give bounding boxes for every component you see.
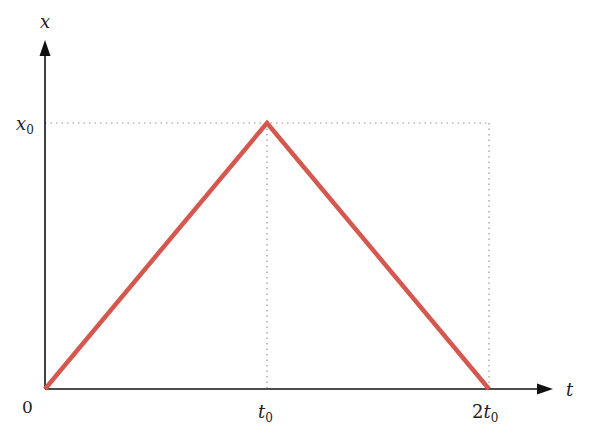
origin-label: 0 — [22, 397, 33, 417]
x-tick-t0: t0 — [258, 401, 273, 425]
axes — [45, 52, 541, 389]
y-tick-x0-sub: 0 — [26, 123, 34, 137]
x-tick-t0-sub: 0 — [265, 411, 273, 425]
x-tick-2t0-sub: 0 — [491, 411, 499, 425]
y-tick-x0-main: x — [16, 113, 26, 134]
y-axis-label: x — [40, 11, 50, 32]
y-axis-arrow-icon — [40, 40, 51, 56]
x-tick-2t0-prefix: 2 — [472, 401, 483, 422]
x-axis-label: t — [566, 379, 574, 400]
x-tick-2t0: 2t0 — [472, 401, 498, 425]
y-tick-x0: x0 — [16, 113, 34, 137]
x-axis-arrow-icon — [537, 384, 553, 395]
guide-lines — [45, 123, 489, 389]
chart-canvas: x t 0 x0 t0 2t0 — [0, 0, 590, 435]
